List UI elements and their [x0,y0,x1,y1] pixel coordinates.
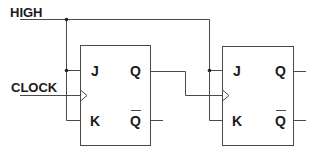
ff2-j-pin-label: J [233,63,241,79]
ff2-j-junction-dot [208,69,212,73]
ff1-q-to-ff2-clock-wire [151,72,223,96]
flip-flop-2 [223,47,294,146]
ff1-k-pin-label: K [90,113,100,129]
ff2-k-pin-label: K [232,113,242,129]
ff1-j-pin-label: J [91,63,99,79]
ff1-qbar-pin-label: Q [130,113,141,129]
jk-flip-flop-diagram: HIGH CLOCK J K Q Q J K Q Q [0,0,316,155]
clock-label: CLOCK [11,80,58,95]
flip-flop-1 [81,46,151,146]
ff2-q-pin-label: Q [275,63,286,79]
ff1-j-junction-dot [65,69,69,73]
ff2-qbar-pin-label: Q [275,113,286,129]
high-junction-dot [65,18,69,22]
high-label: HIGH [10,5,43,20]
ff1-q-pin-label: Q [130,63,141,79]
